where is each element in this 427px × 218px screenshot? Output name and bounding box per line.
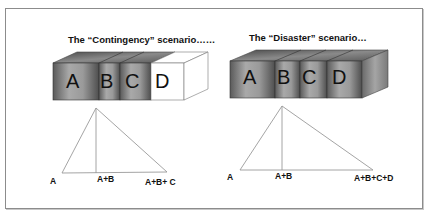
axis-label-abc: A+B+ C: [145, 177, 176, 187]
contingency-triangle: [62, 108, 167, 173]
axis-label-ab: A+B: [275, 171, 292, 181]
axis-label-abcd: A+B+C+D: [354, 173, 393, 183]
disaster-title: The “Disaster” scenario…: [249, 32, 367, 43]
block-label-a: A: [243, 66, 256, 89]
contingency-title: The “Contingency” scenario……: [68, 34, 215, 45]
block-label-a: A: [66, 70, 79, 93]
block-label-b: B: [100, 70, 113, 93]
axis-label-a: A: [50, 176, 56, 186]
axis-label-ab: A+B: [97, 174, 114, 184]
block-label-d: D: [155, 70, 169, 93]
block-label-c: C: [302, 66, 316, 89]
disaster-triangle: [240, 106, 373, 170]
block-label-b: B: [277, 66, 290, 89]
block-label-c: C: [125, 70, 139, 93]
axis-label-a: A: [227, 172, 233, 182]
block-label-d: D: [332, 66, 346, 89]
